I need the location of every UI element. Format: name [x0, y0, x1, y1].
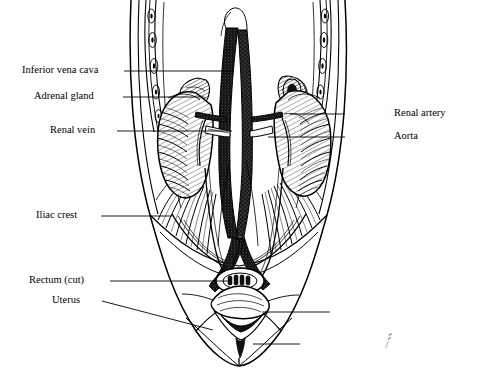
uterus: [182, 286, 299, 319]
pelvic-contents: [182, 268, 299, 366]
label-renal-vein: Renal vein: [50, 124, 95, 135]
anatomy-figure: Inferior vena cava Adrenal gland Renal v…: [0, 0, 478, 387]
label-renal-artery: Renal artery: [394, 107, 446, 118]
kidney-right: [274, 91, 331, 197]
label-uterus: Uterus: [52, 294, 80, 305]
leader-uterus: [102, 301, 213, 330]
label-rectum-cut: Rectum (cut): [29, 274, 84, 285]
anatomy-illustration: [0, 0, 478, 387]
label-inferior-vena-cava: Inferior vena cava: [22, 64, 98, 75]
label-adrenal-gland: Adrenal gland: [34, 90, 94, 101]
kidney-left: [157, 92, 213, 198]
ribcage-left: [145, 0, 164, 132]
label-aorta: Aorta: [394, 130, 418, 141]
label-iliac-crest: Iliac crest: [36, 209, 77, 220]
